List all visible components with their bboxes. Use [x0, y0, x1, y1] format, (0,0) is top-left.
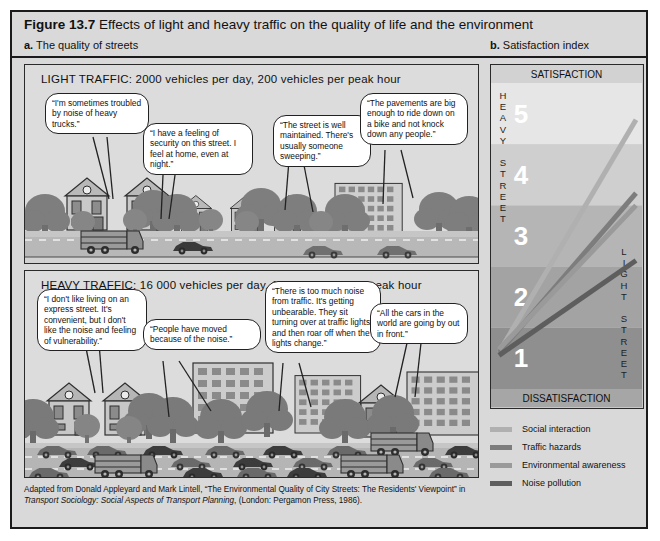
svg-text:5: 5 [514, 99, 528, 129]
speech-tail [377, 343, 437, 405]
figure-frame: Figure 13.7 Effects of light and heavy t… [10, 10, 648, 529]
legend-swatch-social-interaction [490, 427, 512, 432]
svg-text:Y: Y [500, 135, 507, 146]
quote-bubble: “All the cars in the world are going by … [370, 303, 468, 344]
quote-bubble: “People have moved because of the noise.… [143, 319, 261, 350]
figure-header: Figure 13.7 Effects of light and heavy t… [12, 12, 646, 58]
svg-text:E: E [621, 358, 627, 369]
legend-item: Environmental awareness [490, 456, 650, 474]
legend-item: Traffic hazards [490, 438, 650, 456]
svg-text:V: V [500, 124, 507, 135]
figure-number: Figure 13.7 [24, 17, 95, 32]
subfigure-b-caption: b. Satisfaction index [490, 39, 589, 51]
chart-canvas: SATISFACTIONDISSATISFACTION12345HEAVYSTR… [491, 65, 642, 407]
svg-text:A: A [500, 112, 507, 123]
legend-swatch-noise-pollution [490, 481, 512, 486]
svg-text:H: H [500, 90, 507, 101]
svg-text:S: S [500, 157, 506, 168]
quote-bubble: “I'm sometimes troubled by noise of heav… [45, 93, 149, 134]
page-title: Figure 13.7 Effects of light and heavy t… [24, 17, 533, 32]
svg-text:E: E [500, 202, 506, 213]
chart-legend: Social interaction Traffic hazards Envir… [490, 420, 650, 492]
svg-text:T: T [500, 213, 506, 224]
subfigure-a-label: The quality of streets [36, 39, 138, 51]
subfigure-a-marker: a. [24, 39, 33, 51]
speech-tail [371, 150, 431, 212]
figure-title-text: Effects of light and heavy traffic on th… [99, 17, 533, 32]
speech-tail [283, 160, 337, 220]
satisfaction-index-chart: SATISFACTIONDISSATISFACTION12345HEAVYSTR… [490, 64, 644, 409]
svg-text:SATISFACTION: SATISFACTION [531, 69, 603, 80]
svg-text:T: T [621, 369, 627, 380]
legend-swatch-traffic-hazards [490, 445, 512, 450]
svg-text:R: R [500, 180, 507, 191]
quote-bubble: “I have a feeling of security on this st… [143, 123, 253, 175]
speech-tail [273, 363, 333, 419]
svg-text:E: E [621, 347, 627, 358]
quote-bubble: “The pavements are big enough to ride do… [360, 93, 468, 145]
svg-text:T: T [500, 168, 506, 179]
legend-label-environmental-awareness: Environmental awareness [522, 460, 626, 470]
quote-bubble: “I don't like living on an express stree… [37, 289, 147, 351]
svg-text:R: R [621, 336, 628, 347]
speech-tail [157, 175, 207, 225]
source-title-italic: Transport Sociology: Social Aspects of T… [24, 496, 234, 505]
heavy-traffic-panel: HEAVY TRAFFIC: 16 000 vehicles per day, … [24, 270, 479, 478]
legend-swatch-environmental-awareness [490, 463, 512, 468]
svg-text:1: 1 [514, 343, 528, 373]
speech-tail [85, 137, 145, 207]
legend-item: Noise pollution [490, 474, 650, 492]
quote-bubble: “There is too much noise from traffic. I… [265, 281, 381, 353]
svg-text:T: T [621, 324, 627, 335]
legend-label-social-interaction: Social interaction [522, 424, 591, 434]
svg-text:E: E [500, 101, 506, 112]
subfigure-b-label: Satisfaction index [503, 39, 589, 51]
svg-text:4: 4 [514, 160, 529, 190]
source-part2: , (London: Pergamon Press, 1986). [234, 496, 362, 505]
svg-text:DISSATISFACTION: DISSATISFACTION [522, 393, 610, 404]
light-traffic-caption: LIGHT TRAFFIC: 2000 vehicles per day, 20… [41, 73, 401, 85]
svg-text:L: L [621, 246, 626, 257]
svg-text:S: S [621, 313, 627, 324]
svg-text:3: 3 [514, 221, 528, 251]
legend-label-traffic-hazards: Traffic hazards [522, 442, 581, 452]
source-note: Adapted from Donald Appleyard and Mark L… [24, 484, 479, 506]
legend-item: Social interaction [490, 420, 650, 438]
source-part1: Adapted from Donald Appleyard and Mark L… [24, 485, 465, 494]
quote-bubble: “The street is well maintained. There's … [273, 115, 371, 167]
speech-tail [73, 343, 133, 403]
legend-label-noise-pollution: Noise pollution [522, 478, 581, 488]
subfigure-b-marker: b. [490, 39, 500, 51]
svg-text:E: E [500, 191, 506, 202]
light-traffic-panel: LIGHT TRAFFIC: 2000 vehicles per day, 20… [24, 64, 479, 264]
speech-tail [153, 361, 223, 425]
svg-text:H: H [621, 280, 628, 291]
subfigure-a-caption: a. The quality of streets [24, 39, 138, 51]
svg-text:T: T [621, 291, 627, 302]
